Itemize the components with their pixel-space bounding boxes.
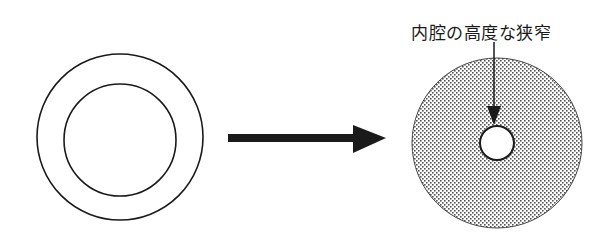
arrow-shaft <box>228 134 356 142</box>
inner-lumen-ring <box>64 84 176 196</box>
stenosed-vessel <box>412 58 582 228</box>
arrow-head-icon <box>353 125 386 153</box>
stenosis-label: 内腔の高度な狭窄 <box>411 19 551 44</box>
outer-wall-ring <box>37 54 203 220</box>
normal-vessel <box>37 54 203 220</box>
narrowed-lumen <box>480 126 514 160</box>
transition-arrow <box>228 125 386 153</box>
